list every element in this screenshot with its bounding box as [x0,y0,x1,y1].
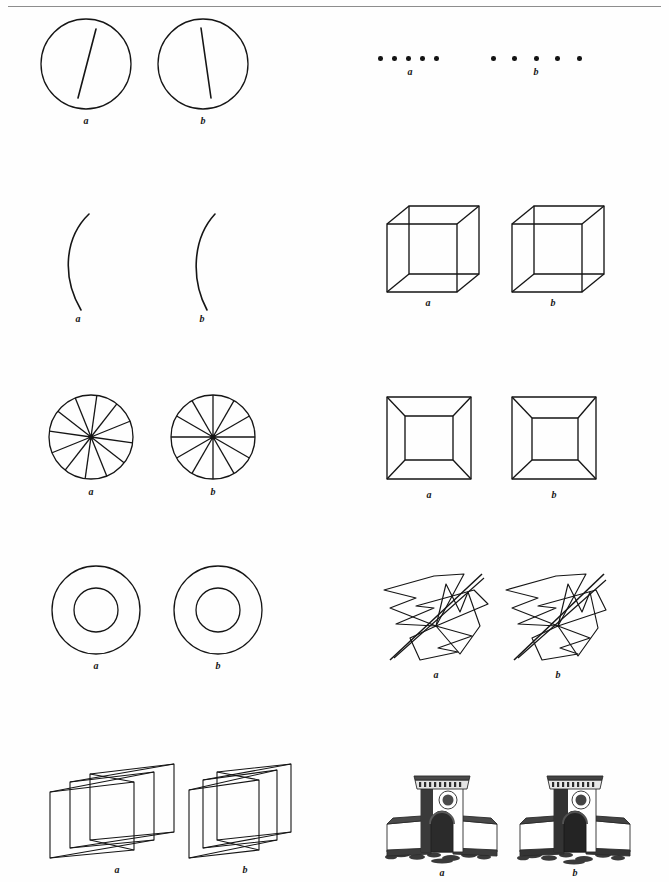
inner-circle [74,588,118,632]
tilted-line-segment [78,29,96,98]
corner-diagonal [512,460,532,479]
corner-diagonal [453,397,471,416]
figure-folded-sheets-a [48,758,188,868]
spoke-hub [88,434,93,439]
cube-front-face [512,224,582,292]
circle-outline [158,19,248,109]
outer-circle [52,566,140,654]
figure-necker-cube-a [383,200,483,296]
figure-folded-sheets-b [185,758,305,868]
pinwheel-blade [384,574,464,626]
dot [378,56,383,61]
caption-folded-sheets-a: a [107,865,127,875]
corner-diagonal [512,397,532,418]
caption-pinwheel-a: a [426,670,446,680]
cube-edge-connector [457,274,479,292]
figure-arc-a [58,212,98,312]
figure-spoked-circle-a [46,392,136,482]
figure-circle-line-b [155,16,251,112]
caption-dots-a: a [400,67,420,77]
header-rule [8,6,661,7]
caption-necker-cube-b: b [543,298,563,308]
caption-circle-line-a: a [76,116,96,126]
corner-diagonal [387,460,405,479]
cornice-dentils [552,782,594,787]
cube-edge-connector [512,206,534,224]
fold-crease [50,772,154,792]
caption-necker-cube-a: a [418,298,438,308]
caption-pinwheel-b: b [548,670,568,680]
figure-arc-b [185,212,225,312]
cornice-dentils [419,782,461,787]
figure-truncated-pyramid-a [384,394,474,482]
dot [392,56,397,61]
tower-cornice-top [414,776,470,780]
folded-sheet [90,764,174,840]
pinwheel-axis-line [390,574,482,660]
caption-circle-line-b: b [193,116,213,126]
figure-monument-b [514,762,636,866]
inner-square [405,416,453,460]
caption-arc-b: b [192,314,212,324]
tower-cornice-top [547,776,603,780]
caption-folded-sheets-b: b [235,865,255,875]
dot [406,56,411,61]
caption-annulus-a: a [86,661,106,671]
figure-spoked-circle-b [168,392,258,482]
caption-annulus-b: b [208,661,228,671]
cube-edge-connector [387,206,409,224]
cube-edge-connector [512,274,534,292]
figure-necker-cube-b [508,200,608,296]
dot [555,56,560,61]
dot [420,56,425,61]
pinwheel-axis-line [394,578,484,658]
figure-annulus-b [172,564,264,656]
cube-back-face [534,206,604,274]
spoke-hub [210,434,215,439]
figure-circle-line-a [38,16,134,112]
cube-front-face [387,224,457,292]
archway [431,811,453,852]
medallion-inner [443,795,454,806]
figure-truncated-pyramid-b [509,394,599,482]
dot [434,56,439,61]
figure-plate-page: a b a b a b [0,0,669,882]
inner-square [532,418,578,460]
medallion-inner [576,795,587,806]
figure-dots-b [491,56,583,64]
figure-pinwheel-a [376,562,496,666]
outer-circle [174,566,262,654]
caption-monument-b: b [565,868,585,878]
tilted-line-segment [201,28,211,98]
corner-diagonal [578,397,596,418]
dot [577,56,582,61]
inner-circle [196,588,240,632]
caption-arc-a: a [68,314,88,324]
dot [534,56,539,61]
corner-diagonal [387,397,405,416]
circle-outline [41,19,131,109]
dot [491,56,496,61]
corner-diagonal [453,460,471,479]
figure-pinwheel-b [498,562,618,666]
caption-spoked-circle-b: b [203,487,223,497]
corner-diagonal [578,460,596,479]
figure-annulus-a [50,564,142,656]
cube-edge-connector [582,206,604,224]
cube-back-face [409,206,479,274]
cube-edge-connector [387,274,409,292]
caption-truncated-pyramid-b: b [544,490,564,500]
curved-arc [196,214,215,310]
fold-crease [189,770,277,790]
dot [512,56,517,61]
pinwheel-blade [506,574,586,626]
figure-monument-a [381,762,503,866]
outer-square [387,397,471,479]
caption-dots-b: b [526,67,546,77]
cube-edge-connector [457,206,479,224]
cube-edge-connector [582,274,604,292]
pinwheel-axis-line [514,574,604,660]
caption-monument-a: a [432,868,452,878]
archway [564,811,586,852]
caption-spoked-circle-a: a [81,487,101,497]
